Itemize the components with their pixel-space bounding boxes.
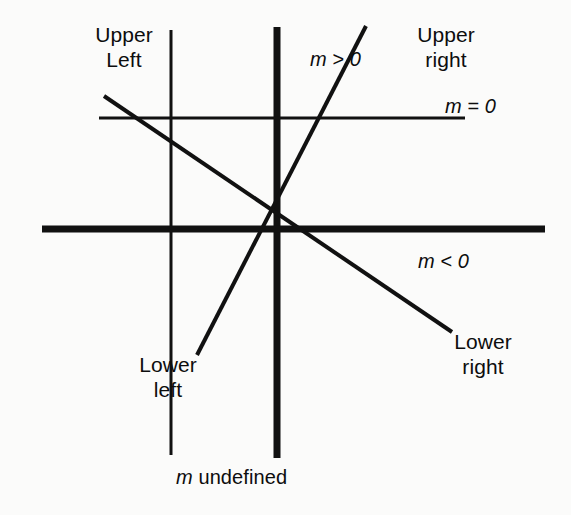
math-var-m: m [176,466,193,488]
label-lower-left: Lowerleft [120,353,216,403]
math-value-zero: 0 [458,250,469,272]
slope-quadrant-figure: UpperLeft Upperright m > 0 m = 0 m < 0 L… [0,0,571,515]
label-slope-zero: m = 0 [445,95,496,119]
math-value-zero: 0 [350,48,361,70]
math-var-m: m [445,95,462,117]
label-slope-negative: m < 0 [418,250,469,274]
math-value-zero: 0 [485,95,496,117]
label-upper-left: UpperLeft [78,23,170,73]
math-word-undefined: undefined [193,466,287,488]
diagram-canvas [0,0,571,515]
label-lower-right: Lowerright [435,330,531,380]
math-var-m: m [418,250,435,272]
math-operator-greater: > [327,48,350,70]
math-operator-equals: = [462,95,485,117]
label-slope-positive: m > 0 [310,48,361,72]
positive-slope-line [197,26,366,355]
label-upper-right: Upperright [398,23,494,73]
math-var-m: m [310,48,327,70]
label-slope-undefined: m undefined [176,466,287,490]
math-operator-less: < [435,250,458,272]
